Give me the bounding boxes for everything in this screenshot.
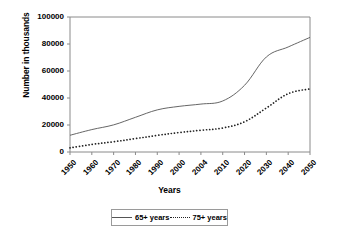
plot-area [0,0,339,235]
legend-item-75: 75+ years [170,213,227,222]
y-tick-label: 40000 [42,94,64,102]
y-tick-label: 0 [60,148,64,156]
axis-ticks [67,17,310,155]
y-tick-label: 100000 [37,13,64,21]
x-axis-title: Years [0,185,339,195]
chart-figure: Number in thousands 02000040000600008000… [0,0,339,235]
y-tick-label: 60000 [42,67,64,75]
series-line-1 [70,37,310,135]
legend-item-65: 65+ years [112,213,169,222]
legend-swatch-solid-icon [112,217,132,219]
y-tick-label: 20000 [42,121,64,129]
legend-label-65: 65+ years [135,213,169,222]
legend-label-75: 75+ years [193,213,227,222]
chart-legend: 65+ years 75+ years [111,209,228,226]
legend-swatch-dotted-icon [170,217,190,219]
y-tick-label: 80000 [42,40,64,48]
data-series-group [70,37,310,148]
y-axis-title: Number in thousands [21,0,31,125]
series-line-2 [70,89,310,148]
